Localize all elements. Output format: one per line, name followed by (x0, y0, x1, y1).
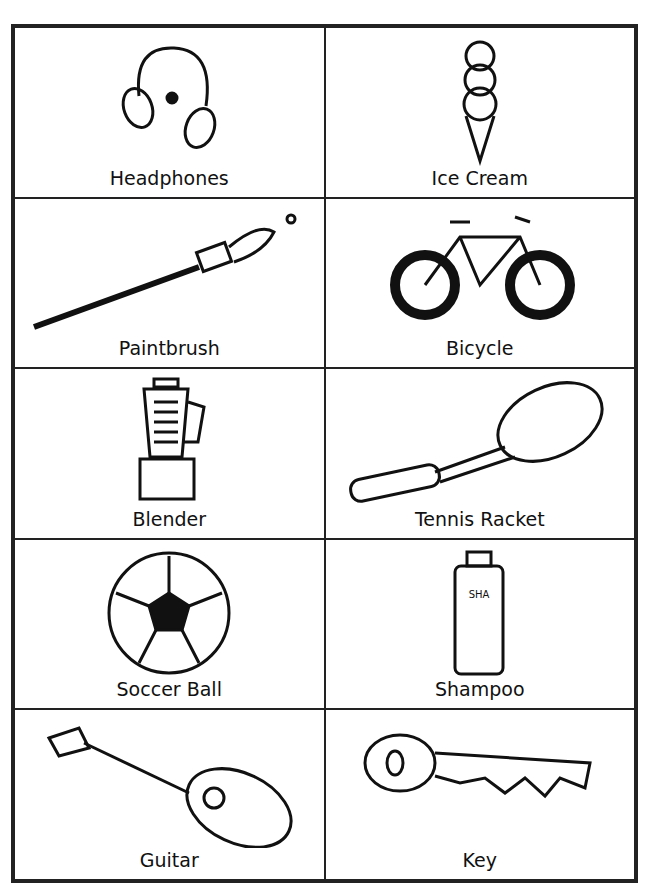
card-tennis-racket: Tennis Racket (325, 368, 636, 539)
card-headphones: Headphones (14, 27, 325, 198)
card-paintbrush: Paintbrush (14, 198, 325, 369)
card-label: Soccer Ball (117, 678, 222, 700)
cut-off-title (210, 0, 450, 6)
card-label: Headphones (110, 167, 229, 189)
svg-text:SHA: SHA (468, 589, 489, 600)
headphones-icon (114, 36, 224, 156)
card-key: Key (325, 709, 636, 880)
tennis-racket-icon (345, 377, 615, 507)
card-label: Shampoo (435, 678, 525, 700)
ice-cream-icon (450, 36, 510, 166)
card-ice-cream: Ice Cream (325, 27, 636, 198)
card-label: Guitar (140, 849, 199, 871)
card-grid: Headphones Ice Cream Paintbrush Bicycle (11, 24, 638, 883)
blender-icon (124, 377, 214, 507)
card-guitar: Guitar (14, 709, 325, 880)
bicycle-icon (380, 207, 580, 327)
card-label: Ice Cream (432, 167, 528, 189)
card-soccer-ball: Soccer Ball (14, 539, 325, 710)
card-bicycle: Bicycle (325, 198, 636, 369)
key-icon (360, 718, 600, 828)
card-label: Paintbrush (119, 337, 220, 359)
paintbrush-icon (29, 207, 309, 337)
card-blender: Blender (14, 368, 325, 539)
card-label: Bicycle (446, 337, 513, 359)
card-label: Blender (132, 508, 206, 530)
shampoo-icon: SHA (445, 548, 515, 678)
card-label: Tennis Racket (415, 508, 545, 530)
card-label: Key (463, 849, 497, 871)
guitar-icon (39, 718, 299, 848)
card-shampoo: SHA Shampoo (325, 539, 636, 710)
soccer-ball-icon (104, 548, 234, 678)
